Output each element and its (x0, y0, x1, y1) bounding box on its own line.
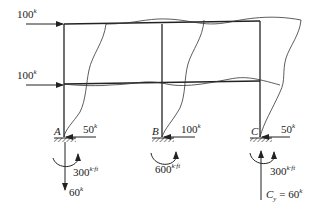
deflected-col-a (64, 24, 106, 137)
fixed-support-hatch-b (152, 138, 174, 142)
reaction-h-label-c: 50k (281, 122, 296, 135)
moment-label-b: 600k·ft (155, 162, 181, 175)
support-label-b: B (152, 125, 159, 137)
deflected-col-c (260, 20, 301, 137)
reaction-v-label-a: 60k (69, 185, 84, 198)
deflected-col-b (162, 20, 204, 137)
beam-roof (64, 21, 260, 24)
support-label-a: A (53, 125, 61, 137)
fixed-support-hatch-a (54, 138, 76, 142)
support-a: A 50k 300k·ft 60k (53, 122, 99, 198)
moment-label-a: 300k·ft (73, 165, 99, 178)
reaction-v-label-c: Cy = 60k (266, 187, 303, 203)
applied-loads: 100k 100k (17, 7, 63, 85)
support-c: C 50k 300k·ft Cy = 60k (250, 122, 303, 203)
support-label-c: C (251, 125, 259, 137)
moment-label-c: 300k·ft (270, 164, 296, 177)
frame-svg: 100k 100k A 50k 300k·ft 60k B 100k 600k·… (0, 0, 316, 210)
frame-diagram: 100k 100k A 50k 300k·ft 60k B 100k 600k·… (0, 0, 316, 210)
reaction-h-label-a: 50k (83, 122, 98, 135)
load-label-floor: 100k (17, 68, 38, 81)
fixed-support-hatch-c (250, 138, 272, 142)
deflected-shape (64, 17, 301, 137)
moment-arrow-c (250, 152, 274, 164)
load-label-roof: 100k (17, 7, 38, 20)
support-b: B 100k 600k·ft (151, 122, 202, 175)
reaction-h-label-b: 100k (181, 122, 202, 135)
